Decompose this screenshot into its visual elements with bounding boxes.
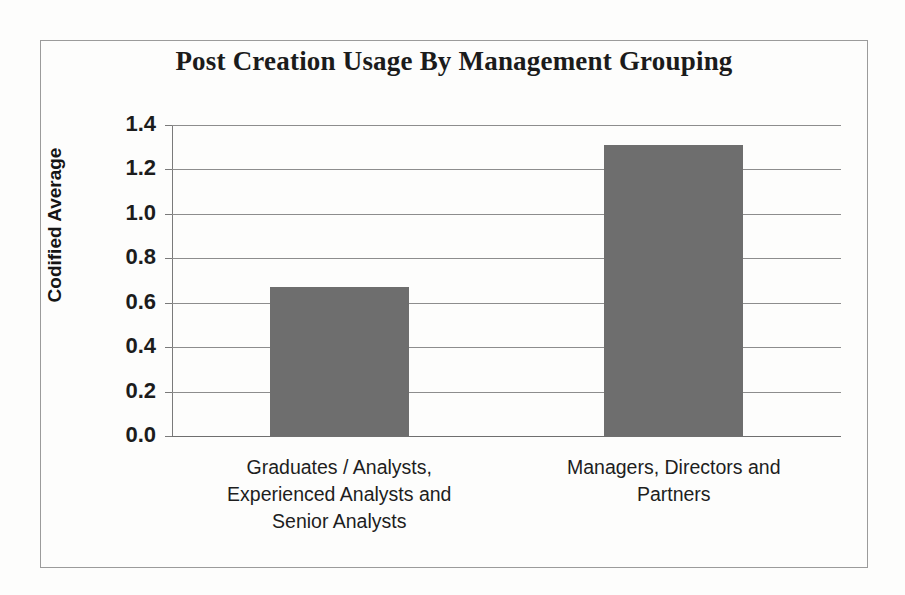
plot-area: [172, 125, 841, 436]
category-label-line: Experienced Analysts and: [172, 481, 507, 508]
y-tick-label: 1.4: [92, 113, 156, 135]
bar: [604, 145, 743, 436]
y-tick-label: 0.4: [92, 335, 156, 357]
gridline: [172, 436, 841, 437]
chart-title: Post Creation Usage By Management Groupi…: [40, 44, 868, 78]
category-label-line: Graduates / Analysts,: [172, 454, 507, 481]
category-label-line: Senior Analysts: [172, 508, 507, 535]
y-axis-title: Codified Average: [45, 115, 65, 335]
category-label: Graduates / Analysts,Experienced Analyst…: [172, 454, 507, 535]
bar: [270, 287, 409, 436]
category-label: Managers, Directors andPartners: [507, 454, 842, 508]
gridline: [172, 125, 841, 126]
category-label-line: Managers, Directors and: [507, 454, 842, 481]
y-tick-label: 0.6: [92, 291, 156, 313]
y-tick-label: 1.2: [92, 157, 156, 179]
y-tick-label: 0.2: [92, 380, 156, 402]
y-tick-label: 0.0: [92, 424, 156, 446]
category-label-line: Partners: [507, 481, 842, 508]
y-tick-label: 1.0: [92, 202, 156, 224]
chart-screenshot: Post Creation Usage By Management Groupi…: [0, 0, 905, 595]
y-tick-label: 0.8: [92, 246, 156, 268]
